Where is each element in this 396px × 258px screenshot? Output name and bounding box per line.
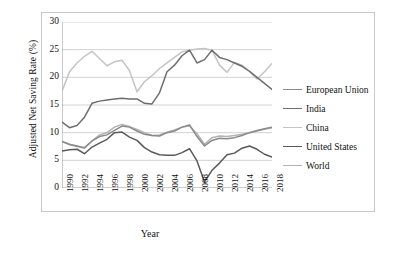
x-tick-label: 1998 [126, 174, 135, 192]
y-tick-label: 0 [41, 183, 59, 193]
chart-legend: European UnionIndiaChinaUnited StatesWor… [283, 80, 375, 175]
y-axis-title: Adjusted Net Saving Rate (%) [28, 14, 38, 184]
legend-label: World [306, 161, 330, 171]
x-tick-label: 1994 [96, 174, 105, 192]
x-tick-label: 2016 [261, 174, 270, 192]
x-axis-title: Year [0, 228, 300, 239]
legend-item[interactable]: China [283, 118, 375, 137]
series-line [62, 50, 272, 127]
x-tick-label: 2002 [156, 174, 165, 192]
legend-label: United States [306, 142, 357, 152]
x-tick-label: 1996 [111, 174, 120, 192]
legend-line-swatch [283, 127, 302, 128]
x-tick-label: 2014 [246, 174, 255, 192]
figure-container: Adjusted Net Saving Rate (%) 05101520253… [0, 0, 396, 258]
legend-item[interactable]: World [283, 156, 375, 175]
line-chart-svg [62, 22, 272, 188]
legend-line-swatch [283, 165, 302, 166]
x-tick-label: 2008 [201, 174, 210, 192]
y-tick-label: 15 [41, 100, 59, 110]
legend-item[interactable]: European Union [283, 80, 375, 99]
y-tick-label: 25 [41, 45, 59, 55]
plot-area [62, 22, 272, 188]
x-tick-label: 2012 [231, 174, 240, 192]
x-axis-tick-labels: 1990199219941996199820002002200420062008… [62, 190, 272, 232]
x-tick-label: 1990 [66, 174, 75, 192]
x-tick-label: 1992 [81, 174, 90, 192]
y-tick-label: 20 [41, 72, 59, 82]
legend-label: China [306, 123, 329, 133]
y-tick-label: 5 [41, 155, 59, 165]
y-tick-label: 30 [41, 17, 59, 27]
x-tick-label: 2004 [171, 174, 180, 192]
legend-line-swatch [283, 146, 302, 147]
x-tick-label: 2010 [216, 174, 225, 192]
legend-item[interactable]: United States [283, 137, 375, 156]
series-line [62, 49, 272, 92]
legend-line-swatch [283, 108, 302, 109]
series-line [62, 125, 272, 148]
legend-item[interactable]: India [283, 99, 375, 118]
legend-label: European Union [306, 85, 369, 95]
x-tick-label: 2000 [141, 174, 150, 192]
legend-label: India [306, 104, 326, 114]
x-tick-label: 2018 [276, 174, 285, 192]
y-axis-tick-labels: 051015202530 [40, 22, 59, 188]
legend-line-swatch [283, 89, 302, 90]
y-tick-label: 10 [41, 128, 59, 138]
x-tick-label: 2006 [186, 174, 195, 192]
